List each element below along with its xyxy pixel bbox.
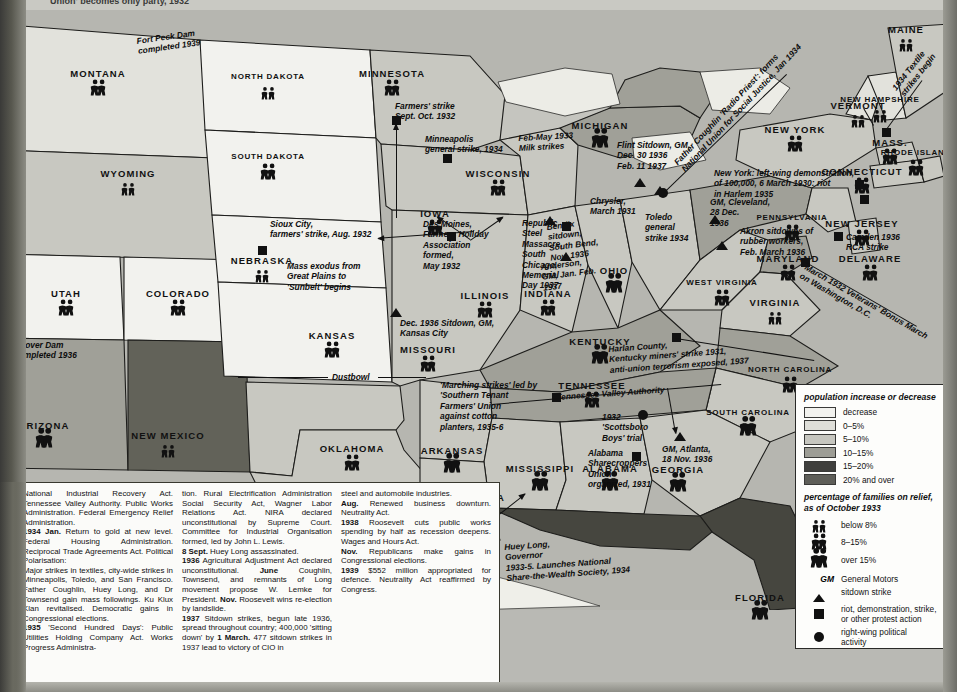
legend-pop-row: 0–5%: [804, 420, 938, 431]
legend-symbol-icon: [804, 604, 834, 619]
state-label-new-jersey: NEW JERSEY: [825, 218, 898, 229]
chronology-paragraph: tion. Rural Electrification Administrati…: [182, 489, 332, 547]
right-wing-activity-icon: [814, 632, 824, 642]
legend-relief-icon: [804, 517, 834, 532]
legend-pop-label: 0–5%: [843, 421, 864, 431]
marker-triangle-anderson: [560, 252, 572, 261]
chronology-paragraph: 1936 Agricultural Adjustment Act declare…: [182, 556, 332, 614]
state-label-maine: MAINE: [888, 24, 924, 35]
scan-shadow-right: [943, 0, 957, 692]
marker-dot-scottsboro: [638, 410, 648, 420]
relief-pictogram: [91, 82, 105, 96]
marker-square-sioux-city: [258, 246, 267, 255]
legend-pop-row: 10–15%: [804, 447, 938, 458]
state-label-wisconsin: WISCONSIN: [466, 168, 531, 179]
scan-shadow-bottom: [0, 682, 957, 692]
relief-pictogram: [533, 477, 547, 491]
chronology-paragraph: National Industrial Recovery Act. Tennes…: [23, 489, 173, 527]
state-label-new-york: NEW YORK: [765, 124, 826, 135]
annotation-marching-strikes: 'Marching strikes' led by 'Southern Tena…: [440, 380, 537, 432]
relief-pictogram: [788, 138, 802, 152]
state-label-montana: MONTANA: [70, 68, 126, 79]
marker-triangle-kansas-city: [390, 308, 402, 317]
chronology-paragraph: Nov. Republicans make gains in Congressi…: [341, 547, 491, 566]
state-label-virginia: VIRGINIA: [749, 297, 800, 308]
relief-pictogram: [753, 606, 767, 620]
legend-relief-icon: [804, 552, 834, 567]
legend-symbol-rows: GMGeneral Motorssitdown strikeriot, demo…: [804, 574, 938, 647]
legend-swatch: [804, 461, 836, 472]
relief-pictogram: [863, 267, 877, 281]
relief-pictogram: [261, 166, 275, 180]
legend-pop-row: 5–10%: [804, 434, 938, 445]
annotation-toledo: Toledo general strike 1934: [645, 212, 688, 243]
legend-swatch: [804, 447, 836, 458]
relief-pictogram: [261, 86, 275, 100]
state-label-illinois: ILLINOIS: [461, 290, 510, 301]
legend-symbol-row: riot, demonstration, strike, or other pr…: [804, 604, 938, 624]
legend-population-rows: decrease0–5%5–10%10–15%15–20%20% and ove…: [804, 407, 938, 486]
annotation-akron: Akron sitdowns of rubber workers, Feb. M…: [740, 226, 813, 257]
sitdown-strike-icon: [813, 594, 825, 602]
annotation-dustbowl: Dustbowl: [332, 372, 370, 382]
annotation-gm-atlanta: GM, Atlanta, 18 Nov. 1936: [662, 444, 712, 465]
legend-relief-title: percentage of families on relief, as of …: [804, 492, 938, 513]
relief-pictogram: [593, 134, 607, 148]
legend-pop-row: decrease: [804, 407, 938, 418]
marker-square-alabama-sharecroppers: [632, 452, 641, 461]
state-label-minnesota: MINNESOTA: [359, 68, 425, 79]
relief-pictogram: [873, 109, 887, 123]
legend-symbol-label: sitdown strike: [841, 587, 891, 597]
state-label-wyoming: WYOMING: [100, 168, 155, 179]
marker-triangle-akron: [716, 241, 728, 250]
legend-symbol-row: right-wing political activity: [804, 627, 938, 647]
marker-square-connecticut: [860, 195, 869, 204]
relief-pictogram: [345, 457, 359, 471]
state-label-kansas: KANSAS: [309, 330, 356, 341]
map-page: Union' becomes only party, 1932 .s{strok…: [0, 0, 957, 692]
relief-pictogram: [768, 311, 782, 325]
relief-pictogram: [851, 114, 865, 128]
protest-action-icon: [814, 609, 824, 619]
legend-symbol-icon: [804, 627, 834, 642]
legend-symbol-label: General Motors: [841, 574, 898, 584]
annotation-chrysler: Chrysler, March 1931: [590, 196, 636, 217]
chronology-textbox: National Industrial Recovery Act. Tennes…: [0, 482, 500, 692]
legend-symbol-icon: [804, 587, 834, 602]
relief-pictogram: [171, 302, 185, 316]
annotation-farmers-strike-mn: Farmers' strike Sept. Oct. 1932: [395, 101, 455, 122]
line-dustbowl-right: [378, 377, 426, 378]
chronology-paragraph: 8 Sept. Huey Long assassinated.: [182, 547, 332, 557]
line-dustbowl-left: [238, 377, 328, 378]
chronology-paragraph: 1938 Roosevelt cuts public works spendin…: [341, 518, 491, 547]
state-label-west-virginia: WEST VIRGINIA: [686, 278, 757, 287]
legend-swatch: [804, 474, 836, 485]
annotation-minneapolis: Minneapolis general strike, 1934: [425, 134, 503, 155]
annotation-kansas-city-sitdown: Dec. 1936 Sitdown, GM, Kansas City: [400, 318, 494, 339]
marker-triangle-gm-cleveland: [709, 215, 721, 224]
relief-pictogram: [541, 302, 555, 316]
chronology-column-1: National Industrial Recovery Act. Tennes…: [23, 489, 173, 687]
legend-pop-label: 10–15%: [843, 448, 873, 458]
annotation-alabama-sharecroppers: Alabama Sharecroppers Union organized, 1…: [588, 448, 651, 490]
cut-off-caption: Union' becomes only party, 1932: [50, 0, 470, 10]
legend-symbol-label: right-wing political activity: [841, 627, 907, 647]
state-label-north-dakota: NORTH DAKOTA: [231, 72, 305, 81]
legend-symbol-row: GMGeneral Motors: [804, 574, 938, 584]
relief-pictogram: [593, 350, 607, 364]
legend-relief-label: 8–15%: [841, 537, 867, 547]
relief-pictogram: [909, 162, 923, 176]
annotation-huey-long: Huey Long, Governor 1933-5. Launches Nat…: [504, 533, 630, 583]
relief-pictogram: [421, 358, 435, 372]
relief-pictogram: [781, 267, 795, 281]
chronology-paragraph: 1935 'Second Hundred Days': Public Utili…: [23, 623, 173, 652]
relief-pictogram: [37, 434, 51, 448]
legend-pop-label: 15–20%: [843, 461, 873, 471]
state-label-mass-: MASS.: [872, 137, 908, 148]
arrow-mn-farmers-north: [396, 124, 397, 218]
chronology-paragraph: Aug. Renewed business downturn. Neutrali…: [341, 499, 491, 518]
relief-pictogram: [715, 292, 729, 306]
relief-pictogram: [812, 554, 826, 568]
relief-pictogram: [812, 519, 826, 533]
state-label-delaware: DELAWARE: [839, 253, 902, 264]
